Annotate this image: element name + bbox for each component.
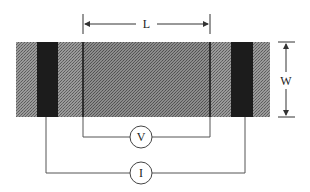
right-current-contact: [231, 42, 253, 117]
ammeter-label: I: [139, 166, 143, 180]
length-dimension: L: [83, 14, 210, 34]
length-label: L: [143, 17, 150, 31]
voltmeter-circuit: V: [83, 117, 210, 148]
ammeter-wire-right: [152, 117, 245, 173]
sample-measured-region: [83, 42, 210, 117]
width-label: W: [280, 74, 292, 88]
voltmeter-wire-left: [83, 117, 130, 137]
voltmeter-wire-right: [152, 117, 210, 137]
left-current-contact: [37, 42, 58, 117]
voltmeter-label: V: [137, 130, 146, 144]
ammeter-wire-left: [46, 117, 130, 173]
four-point-probe-diagram: L W V I: [0, 0, 310, 192]
width-dimension: W: [278, 42, 295, 117]
